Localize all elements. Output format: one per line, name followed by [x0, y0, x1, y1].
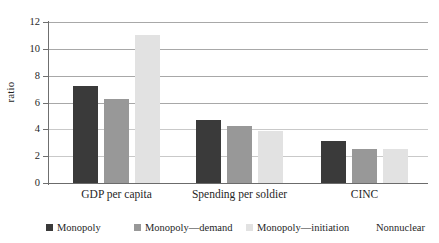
legend-label: Monopoly—initiation — [257, 222, 349, 233]
legend-item: Monopoly—initiation — [246, 220, 349, 234]
gridline-10 — [49, 49, 428, 50]
gridline-8 — [49, 76, 428, 77]
bar — [383, 149, 408, 183]
y-tick-label-4: 4 — [14, 124, 40, 134]
legend-item: Monopoly — [46, 220, 101, 234]
y-tick-label-12: 12 — [14, 17, 40, 27]
legend-swatch-icon — [134, 224, 141, 231]
bar — [352, 149, 377, 183]
y-tick-label-6: 6 — [14, 98, 40, 108]
bar — [73, 86, 98, 183]
bar-chart-figure: ratio 121086420 GDP per capitaSpending p… — [0, 0, 439, 243]
gridline-0 — [49, 183, 428, 184]
y-tick-label-2: 2 — [14, 151, 40, 161]
bar — [321, 141, 346, 183]
legend-swatch-icon — [246, 224, 253, 231]
y-tick-label-8: 8 — [14, 71, 40, 81]
y-tick-label-10: 10 — [14, 44, 40, 54]
bar — [227, 126, 252, 183]
legend-item: Nonnuclear — [376, 220, 425, 234]
y-tick-label-0: 0 — [14, 178, 40, 188]
legend-swatch-icon — [46, 224, 53, 231]
legend-label: Monopoly — [57, 222, 101, 233]
x-tick-label: CINC — [285, 188, 439, 200]
plot-area — [49, 22, 428, 183]
bar — [135, 35, 160, 183]
gridline-12 — [49, 22, 428, 23]
bar — [104, 99, 129, 183]
legend-label: Nonnuclear — [376, 222, 425, 233]
chart-legend: MonopolyMonopoly—demandMonopoly—initiati… — [46, 220, 436, 234]
bar — [196, 120, 221, 183]
legend-item: Monopoly—demand — [134, 220, 233, 234]
legend-label: Monopoly—demand — [145, 222, 233, 233]
bar — [258, 131, 283, 183]
